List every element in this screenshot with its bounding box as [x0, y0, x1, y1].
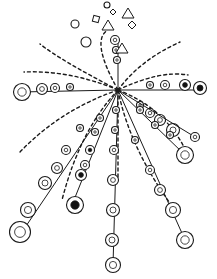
bead-inner-circle	[181, 236, 189, 244]
ornament-square-icon	[92, 15, 99, 22]
bead-inner-circle	[154, 124, 156, 126]
ornament-triangle-icon	[102, 20, 114, 30]
bead-filled-circle	[79, 173, 84, 178]
bead-inner-circle	[99, 117, 101, 119]
ornament-diamond-icon	[128, 21, 136, 29]
center-dot	[116, 88, 120, 92]
bead-inner-circle	[83, 163, 87, 167]
ornament-triangle-icon	[122, 8, 134, 18]
bead-inner-circle	[115, 109, 117, 111]
bead-inner-circle	[134, 139, 136, 141]
bead-inner-circle	[114, 129, 116, 131]
radiating-burst-illustration	[0, 0, 217, 279]
ornament-circle-icon	[71, 20, 79, 28]
bead-inner-circle	[55, 166, 60, 171]
chain-line	[118, 90, 185, 155]
bead-inner-circle	[169, 206, 176, 213]
bead-inner-circle	[139, 109, 141, 111]
bead-inner-circle	[111, 178, 116, 183]
bead-inner-circle	[94, 131, 96, 133]
bead-inner-circle	[69, 86, 71, 88]
bead-inner-circle	[148, 168, 152, 172]
bead-inner-circle	[24, 206, 31, 213]
dashed-ray	[20, 90, 118, 152]
bead-filled-circle	[71, 201, 79, 209]
bead-inner-circle	[163, 83, 167, 87]
bead-filled-circle	[183, 83, 188, 88]
bead-inner-circle	[109, 237, 115, 243]
bead-inner-circle	[116, 59, 118, 61]
bead-inner-circle	[64, 148, 68, 152]
bead-inner-circle	[110, 207, 116, 213]
ornament-circle-icon	[104, 2, 110, 8]
bead-inner-circle	[112, 148, 116, 152]
bead-inner-circle	[158, 118, 163, 123]
bead-inner-circle	[158, 188, 163, 193]
bead-inner-circle	[169, 134, 171, 136]
bead-inner-circle	[148, 111, 152, 115]
bead-inner-circle	[79, 127, 81, 129]
bead-inner-circle	[113, 38, 117, 42]
bead-filled-circle	[88, 148, 92, 152]
bead-inner-circle	[109, 261, 116, 268]
bead-inner-circle	[193, 135, 197, 139]
bead-inner-circle	[53, 86, 57, 90]
bead-inner-circle	[149, 84, 151, 86]
ornament-diamond-icon	[110, 9, 116, 15]
ornament-circle-icon	[81, 37, 91, 47]
bead-inner-circle	[18, 88, 26, 96]
bead-inner-circle	[181, 151, 189, 159]
bead-inner-circle	[15, 227, 26, 238]
bead-inner-circle	[42, 180, 48, 186]
bead-filled-circle	[197, 85, 203, 91]
bead-inner-circle	[40, 87, 45, 92]
sketch-canvas	[0, 0, 217, 279]
